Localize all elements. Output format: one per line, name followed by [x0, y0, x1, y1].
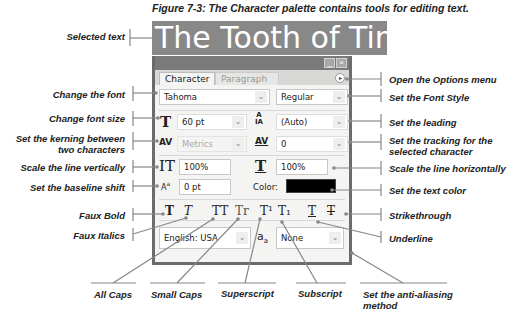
font-family-value: Tahoma [164, 92, 197, 102]
font-size-select[interactable]: 60 pt ⌄ [177, 114, 247, 130]
vertical-scale-input[interactable]: 100% [179, 159, 231, 175]
text-color-swatch[interactable] [286, 179, 336, 193]
kerning-value: Metrics [182, 139, 213, 149]
callout-change-font: Change the font [53, 89, 125, 100]
callout-scale-horizontal: Scale the line horizontally [389, 163, 506, 174]
font-size-icon: T [160, 113, 171, 131]
tab-strip: Character Paragraph ▸ [155, 70, 349, 85]
tracking-select[interactable]: 0 ⌄ [276, 136, 348, 152]
vertical-scale-value: 100% [184, 162, 208, 172]
leading-select[interactable]: (Auto) ⌄ [276, 114, 348, 130]
superscript-button[interactable]: T¹ [260, 204, 273, 218]
chevron-down-icon: ⌄ [236, 232, 248, 244]
palette-titlebar[interactable]: _ × [155, 56, 349, 70]
divider [159, 199, 345, 200]
callout-superscript: Superscript [221, 288, 274, 299]
tab-character[interactable]: Character [159, 72, 215, 85]
callout-faux-bold: Faux Bold [79, 210, 125, 221]
baseline-shift-icon: Aa [161, 180, 170, 192]
horizontal-scale-value: 100% [281, 162, 305, 172]
callout-anti-aliasing-line1: Set the anti-aliasing [363, 289, 453, 300]
strikethrough-button[interactable]: T [327, 204, 335, 218]
callout-faux-italics: Faux Italics [73, 230, 125, 241]
options-menu-button[interactable]: ▸ [335, 73, 345, 83]
callout-anti-aliasing: Set the anti-aliasing method [363, 289, 453, 311]
chevron-down-icon: ⌄ [333, 116, 345, 128]
callout-strikethrough: Strikethrough [389, 210, 451, 221]
anti-aliasing-icon: aa [257, 230, 268, 245]
font-family-select[interactable]: Tahoma ⌄ [159, 89, 270, 105]
language-value: English: USA [164, 233, 218, 243]
callout-baseline-shift: Set the baseline shift [30, 182, 125, 193]
callout-kerning-line2: two characters [16, 144, 125, 155]
leading-value: (Auto) [281, 117, 307, 127]
tab-paragraph[interactable]: Paragraph [215, 72, 279, 85]
subscript-button[interactable]: T₁ [278, 204, 291, 218]
callout-small-caps: Small Caps [151, 289, 202, 300]
callout-selected-text: Selected text [66, 31, 125, 42]
callout-anti-aliasing-line2: method [363, 300, 453, 311]
divider [159, 155, 345, 156]
selected-text-sample[interactable]: The Tooth of Time [152, 21, 387, 55]
faux-italic-button[interactable]: T [184, 204, 192, 218]
font-style-value: Regular [281, 92, 314, 102]
chevron-down-icon: ⌄ [329, 232, 341, 244]
language-select[interactable]: English: USA ⌄ [159, 227, 251, 249]
callout-kerning: Set the kerning between two characters [16, 133, 125, 155]
callout-font-style: Set the Font Style [389, 92, 469, 103]
chevron-down-icon: ⌄ [333, 138, 345, 150]
tracking-value: 0 [281, 139, 286, 149]
callout-scale-vertical: Scale the line vertically [20, 162, 125, 173]
horizontal-scale-input[interactable]: 100% [276, 159, 328, 175]
minimize-button[interactable]: _ [324, 58, 335, 68]
font-size-value: 60 pt [182, 117, 204, 127]
callout-underline: Underline [389, 233, 433, 244]
kerning-select[interactable]: Metrics ⌄ [177, 136, 247, 152]
anti-aliasing-value: None [281, 233, 303, 243]
figure-caption: Figure 7-3: The Character palette contai… [152, 2, 469, 14]
callout-all-caps: All Caps [94, 289, 132, 300]
faux-bold-button[interactable]: T [165, 204, 174, 218]
callout-tracking-line2: selected character [389, 146, 492, 157]
callout-text-color: Set the text color [389, 185, 466, 196]
horizontal-scale-icon: T [255, 157, 266, 175]
chevron-down-icon: ⌄ [232, 138, 244, 150]
callout-leading: Set the leading [389, 117, 457, 128]
small-caps-button[interactable]: Tr [235, 204, 249, 218]
baseline-shift-input[interactable]: 0 pt [179, 179, 231, 195]
callout-options-menu: Open the Options menu [389, 74, 497, 85]
kerning-icon: AV [159, 137, 172, 147]
close-button[interactable]: × [336, 58, 347, 68]
character-palette: _ × Character Paragraph ▸ Tahoma ⌄ Regul… [152, 56, 352, 265]
anti-aliasing-select[interactable]: None ⌄ [276, 227, 344, 249]
divider [159, 220, 345, 221]
color-label: Color: [253, 182, 278, 192]
callout-tracking-line1: Set the tracking for the [389, 135, 492, 146]
callout-change-font-size: Change font size [49, 113, 125, 124]
chevron-down-icon: ⌄ [255, 91, 267, 103]
all-caps-button[interactable]: TT [212, 204, 228, 218]
vertical-scale-icon: IT [159, 157, 175, 175]
callout-kerning-line1: Set the kerning between [16, 133, 125, 144]
baseline-shift-value: 0 pt [184, 182, 201, 192]
divider [159, 110, 345, 111]
callout-subscript: Subscript [298, 288, 342, 299]
callout-tracking: Set the tracking for the selected charac… [389, 135, 492, 157]
chevron-down-icon: ⌄ [333, 91, 345, 103]
chevron-down-icon: ⌄ [232, 116, 244, 128]
leading-icon: AIA [255, 112, 263, 126]
font-style-select[interactable]: Regular ⌄ [276, 89, 348, 105]
tracking-icon: AV [255, 136, 268, 146]
underline-button[interactable]: T [308, 204, 316, 218]
